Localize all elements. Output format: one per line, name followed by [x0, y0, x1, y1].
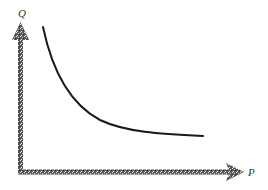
y-axis-label: Q: [18, 8, 26, 19]
y-axis-arrowhead-icon: [12, 22, 29, 40]
x-axis-line: [18, 170, 230, 175]
y-axis-line: [18, 38, 23, 174]
diagram-canvas: [0, 0, 268, 190]
demand-curve: [43, 27, 203, 136]
y-axis: [12, 22, 29, 174]
x-axis-label: P: [248, 167, 255, 178]
x-axis: [18, 163, 244, 181]
